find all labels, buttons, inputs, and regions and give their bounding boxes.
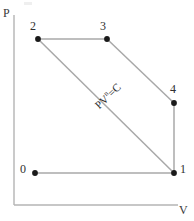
state-point-4: [171, 100, 177, 106]
state-point-1: [171, 170, 177, 176]
pv-diagram-canvas: [0, 0, 194, 221]
pv-diagram-figure: P V 2 3 4 1 0 PVn=C: [0, 0, 194, 221]
y-axis-label: P: [3, 7, 10, 19]
state-label-3: 3: [100, 20, 106, 32]
state-label-1: 1: [180, 163, 186, 175]
state-label-0: 0: [20, 163, 26, 175]
state-point-2: [35, 36, 41, 42]
state-label-4: 4: [170, 83, 176, 95]
segment-2-1: [38, 39, 174, 173]
state-point-3: [104, 36, 110, 42]
state-point-0: [32, 170, 38, 176]
state-label-2: 2: [30, 20, 36, 32]
axes-group: [14, 15, 178, 205]
x-axis-label: V: [179, 204, 188, 216]
